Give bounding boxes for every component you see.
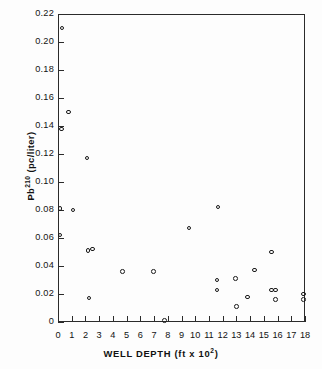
data-point	[215, 278, 220, 283]
y-axis-tick-label: 0	[49, 316, 54, 326]
data-point	[269, 250, 274, 255]
data-point	[273, 297, 278, 302]
data-point	[66, 110, 71, 115]
data-point	[151, 269, 156, 274]
y-axis-tick-label: 0.10	[35, 176, 54, 186]
y-axis-tick-label: 0.16	[35, 92, 54, 102]
data-point	[252, 268, 257, 273]
data-point	[273, 288, 278, 293]
y-axis-tick-label: 0.20	[35, 36, 54, 46]
data-point	[58, 206, 63, 211]
data-point	[162, 318, 167, 323]
x-axis-tick-label: 18	[296, 330, 314, 340]
y-axis-tick-label: 0.14	[35, 120, 54, 130]
data-point	[120, 269, 125, 274]
data-point	[187, 226, 192, 231]
y-axis-title-exponent: 210	[24, 176, 31, 188]
data-point	[245, 295, 250, 300]
x-axis-tick	[305, 316, 306, 322]
y-axis-tick-label: 0.02	[35, 288, 54, 298]
y-axis-tick-label: 0.12	[35, 148, 54, 158]
data-point	[59, 127, 64, 132]
y-axis-tick-label: 0.18	[35, 64, 54, 74]
y-axis-tick-label: 0.06	[35, 232, 54, 242]
y-axis-tick-label: 0.22	[35, 8, 54, 18]
y-axis-tick-label: 0.08	[35, 204, 54, 214]
data-point	[60, 26, 65, 31]
y-axis-tick-label: 0.04	[35, 260, 54, 270]
y-axis-tick	[58, 322, 64, 323]
x-axis-title-exponent: 2	[210, 347, 214, 354]
data-point	[87, 296, 92, 301]
data-point	[85, 156, 90, 161]
data-point	[301, 292, 306, 297]
scatter-plot-figure: 00.020.040.060.080.100.120.140.160.180.2…	[0, 0, 322, 369]
plot-data-area	[58, 14, 305, 322]
data-point	[58, 233, 63, 238]
data-point	[216, 205, 221, 210]
data-point	[71, 208, 76, 213]
data-point	[215, 288, 220, 293]
data-point	[301, 297, 306, 302]
data-point	[234, 304, 239, 309]
data-point	[90, 247, 95, 252]
data-point	[233, 276, 238, 281]
x-axis-title: WELL DEPTH (ft x 102)	[0, 347, 322, 359]
y-axis-title: Pb210 (pc/liter)	[24, 76, 36, 256]
